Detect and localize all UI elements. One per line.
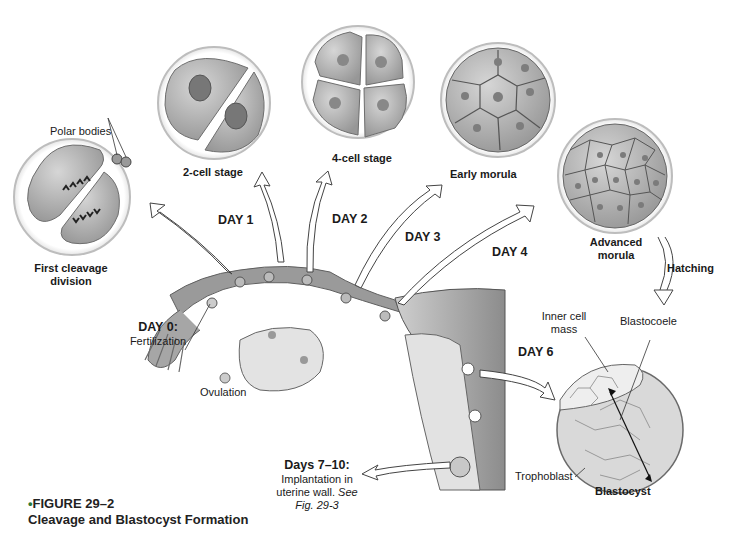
day3-label: DAY 3 [405, 230, 440, 244]
first-cleavage-cell-icon [14, 118, 131, 255]
hatching-arrow-icon [654, 290, 673, 305]
day6-label: DAY 6 [518, 345, 553, 359]
blastocyst-label: Blastocyst [595, 485, 651, 498]
days-7-10-label: Days 7–10: Implantation in uterine wall.… [272, 458, 362, 512]
advanced-morula-label: Advanced morula [584, 236, 648, 262]
early-morula-icon [441, 43, 555, 157]
figure-caption: •FIGURE 29–2 Cleavage and Blastocyst For… [28, 496, 248, 528]
two-cell-stage-label: 2-cell stage [183, 166, 243, 179]
blastocoele-label: Blastocoele [620, 315, 677, 328]
day1-label: DAY 1 [218, 213, 253, 227]
early-morula-label: Early morula [450, 168, 517, 181]
day4-label: DAY 4 [492, 245, 527, 259]
two-cell-stage-icon [158, 47, 270, 159]
ovary-icon [239, 328, 323, 391]
four-cell-stage-label: 4-cell stage [332, 152, 392, 165]
figure-canvas: Polar bodies First cleavage division 2-c… [0, 0, 740, 550]
four-cell-stage-icon [302, 26, 414, 138]
day2-label: DAY 2 [332, 212, 367, 226]
hatching-label: Hatching [667, 262, 714, 275]
first-cleavage-label: First cleavage division [26, 262, 116, 288]
day0-label: DAY 0: Fertilization [108, 320, 208, 348]
polar-bodies-label: Polar bodies [50, 125, 111, 138]
trophoblast-label: Trophoblast [515, 470, 573, 483]
advanced-morula-icon [558, 119, 672, 233]
ovulation-label: Ovulation [200, 386, 246, 399]
blastocyst-icon [557, 337, 683, 493]
inner-cell-mass-label: Inner cell mass [534, 310, 594, 336]
uterus-icon [395, 289, 505, 490]
